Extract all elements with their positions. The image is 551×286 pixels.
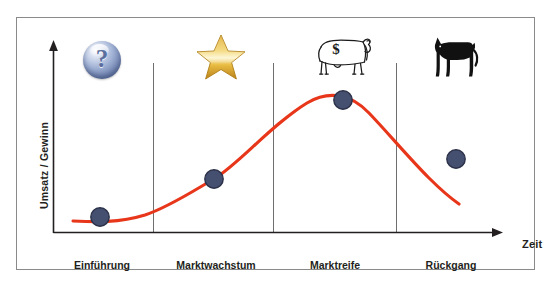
data-point-marker: [205, 170, 223, 188]
question-mark-orb-icon: ?: [83, 41, 121, 79]
figure-frame: ?: [16, 17, 535, 270]
product-life-cycle-diagram: ?: [0, 0, 551, 286]
dog-icon: [428, 33, 480, 85]
question-mark-glyph: ?: [83, 45, 121, 73]
data-point-marker: [334, 91, 352, 109]
cash-cow-icon: $: [309, 33, 377, 85]
x-axis-label: Zeit: [522, 238, 542, 250]
stage-label-einfuehrung: Einführung: [74, 259, 130, 271]
y-axis-arrowhead: [49, 40, 58, 51]
dollar-sign-glyph: $: [332, 41, 340, 57]
stage-label-marktwachstum: Marktwachstum: [176, 259, 255, 271]
stage-dividers: [154, 63, 397, 233]
data-point-marker: [91, 208, 109, 226]
life-cycle-curve: [73, 95, 459, 221]
data-point-marker: [447, 150, 465, 168]
stage-label-rueckgang: Rückgang: [426, 259, 477, 271]
star-icon: [195, 32, 247, 86]
y-axis-label: Umsatz / Gewinn: [36, 110, 52, 220]
x-axis-arrowhead: [492, 228, 503, 237]
stage-label-marktreife: Marktreife: [310, 259, 360, 271]
